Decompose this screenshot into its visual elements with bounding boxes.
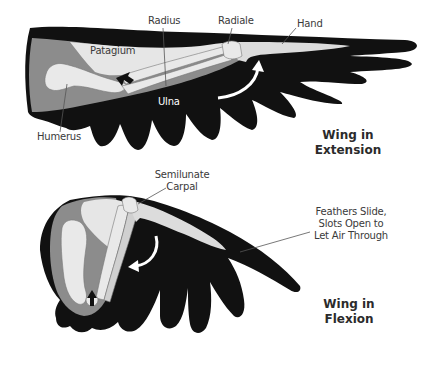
label-semilunate-line2: Carpal	[152, 181, 212, 193]
title-flexion-line1: Wing in	[313, 297, 385, 312]
label-feathers-line2: Slots Open to	[312, 218, 390, 230]
flexed-wing	[40, 188, 310, 333]
label-semilunate-line1: Semilunate	[152, 169, 212, 181]
radiale-bone	[222, 41, 242, 59]
title-extension: Wing in Extension	[298, 128, 398, 158]
semilunate-carpal-bone	[122, 197, 138, 213]
title-flexion-line2: Flexion	[313, 312, 385, 327]
label-semilunate-carpal: Semilunate Carpal	[152, 169, 212, 193]
title-flexion: Wing in Flexion	[313, 297, 385, 327]
label-feathers-line3: Let Air Through	[312, 230, 390, 242]
title-extension-line1: Wing in	[298, 128, 398, 143]
label-hand: Hand	[297, 18, 323, 30]
label-radiale: Radiale	[218, 15, 254, 27]
label-feathers-line1: Feathers Slide,	[312, 206, 390, 218]
label-radius: Radius	[148, 15, 180, 27]
title-extension-line2: Extension	[298, 143, 398, 158]
label-patagium: Patagium	[90, 45, 135, 57]
label-humerus: Humerus	[37, 131, 81, 143]
label-ulna: Ulna	[158, 96, 180, 108]
label-feathers-slide: Feathers Slide, Slots Open to Let Air Th…	[312, 206, 390, 242]
